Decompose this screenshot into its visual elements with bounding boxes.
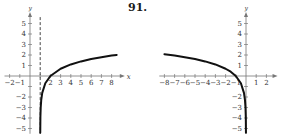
x-tick-label: 6: [89, 79, 94, 87]
y-tick-label: −4: [16, 114, 27, 122]
x-tick-label: −5: [190, 79, 200, 87]
x-tick-label: −7: [169, 79, 179, 87]
y-tick-label: 4: [22, 30, 27, 38]
y-tick-label: −2: [232, 93, 242, 101]
y-tick-label: −2: [16, 93, 26, 101]
y-tick-label: −4: [232, 114, 243, 122]
y-axis-arrow-icon: [28, 12, 32, 17]
x-axis-label: x: [127, 73, 131, 81]
x-tick-label: 8: [109, 79, 113, 87]
problem-number: 91.: [128, 1, 147, 14]
y-tick-label: 4: [238, 30, 243, 38]
x-tick-label: 7: [99, 79, 103, 87]
x-tick-label: 3: [58, 79, 62, 87]
x-tick-label: 4: [69, 79, 74, 87]
y-tick-label: 2: [238, 51, 242, 59]
graph-left: yx−2−1234567854321−2−3−4−5: [4, 4, 130, 134]
y-axis-label: y: [244, 4, 249, 12]
x-tick-label: 5: [79, 79, 83, 87]
x-tick-label: −2: [4, 79, 14, 87]
y-tick-label: −5: [16, 125, 26, 133]
x-tick-label: −8: [159, 79, 169, 87]
x-axis-arrow-icon: [273, 74, 278, 78]
y-axis-arrow-icon: [244, 12, 248, 17]
y-tick-label: 5: [238, 20, 242, 28]
y-tick-label: 3: [238, 41, 242, 49]
y-tick-label: 3: [22, 41, 26, 49]
x-tick-label: −1: [15, 79, 25, 87]
y-tick-label: 5: [22, 20, 26, 28]
x-axis-arrow-icon: [120, 74, 125, 78]
x-tick-label: 1: [254, 79, 258, 87]
x-tick-label: 2: [264, 79, 268, 87]
y-axis-label: y: [28, 4, 33, 12]
y-tick-label: 2: [22, 51, 26, 59]
y-tick-label: −3: [232, 104, 242, 112]
x-tick-label: 2: [48, 79, 52, 87]
y-tick-label: −3: [16, 104, 26, 112]
graph-right: y−8−7−6−5−4−3−2−11254321−2−3−4−5: [159, 4, 277, 134]
y-tick-label: −5: [232, 125, 242, 133]
x-tick-label: −2: [220, 79, 230, 87]
y-tick-label: 1: [238, 62, 242, 70]
function-curve: [40, 55, 116, 133]
y-tick-label: 1: [22, 62, 26, 70]
figure-panel: 91. yx−2−1234567854321−2−3−4−5 y−8−7−6−5…: [0, 0, 282, 136]
x-tick-label: −3: [210, 79, 220, 87]
